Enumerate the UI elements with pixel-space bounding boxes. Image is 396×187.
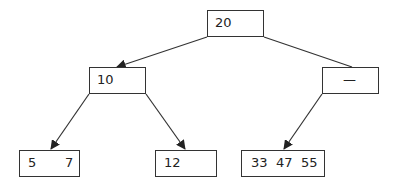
node-right: — [322, 67, 379, 94]
node-leaf-lr: 12 [155, 150, 217, 177]
edge-left-to-leaf-ll [51, 94, 89, 149]
node-key: 47 [276, 151, 293, 175]
node-left: 10 [89, 67, 146, 94]
edge-root-to-left [117, 37, 207, 67]
edge-left-to-leaf-lr [146, 94, 185, 149]
node-key: 33 [251, 151, 268, 175]
node-leaf-ll: 5 7 [19, 150, 80, 177]
node-root: 20 [207, 10, 264, 37]
node-leaf-rl: 33 47 55 [241, 150, 325, 177]
node-key: — [343, 68, 356, 92]
edge-right-to-leaf-rl [284, 94, 322, 149]
node-key: 20 [215, 11, 232, 35]
node-key: 55 [301, 151, 318, 175]
node-key: 10 [97, 68, 114, 92]
tree-diagram: 20 10 — 5 7 12 33 47 55 [0, 0, 396, 187]
node-key: 12 [164, 151, 181, 175]
edge-root-to-right [264, 37, 352, 67]
node-key: 5 [28, 151, 36, 175]
node-key: 7 [65, 151, 73, 175]
